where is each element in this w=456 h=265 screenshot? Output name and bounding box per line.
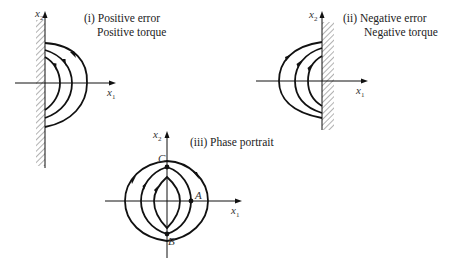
direction-arrow-icon (285, 54, 292, 61)
panel-ii-x2-label: x2 (309, 8, 317, 23)
panel-i-title-line1: (i) Positive error (84, 12, 160, 25)
hatched-wall-right (322, 22, 334, 130)
x2-axis-arrow-icon (165, 131, 170, 138)
panel-ii-title-line2: Negative torque (364, 26, 438, 39)
panel-ii-x1-label: x1 (356, 84, 364, 99)
point-a-label: A (195, 189, 202, 201)
panel-iii-x2-label: x2 (153, 128, 161, 143)
x1-axis-arrow-icon (235, 199, 242, 204)
phase-portrait-diagram (0, 0, 456, 265)
x1-axis-arrow-icon (361, 79, 368, 84)
x1-axis-arrow-icon (109, 81, 116, 86)
hatched-wall-left (36, 20, 45, 166)
panel-ii (256, 11, 368, 130)
panel-ii-title-line1: (ii) Negative error (343, 12, 427, 25)
panel-iii-x1-label: x1 (231, 204, 239, 219)
point-c-label: C (158, 152, 165, 164)
panel-i-x1-label: x1 (107, 86, 115, 101)
panel-iii-title: (iii) Phase portrait (190, 136, 274, 149)
trajectory-outer (279, 42, 322, 118)
panel-i-x2-label: x2 (35, 7, 43, 22)
point-a-marker (189, 199, 194, 204)
panel-i-title-line2: Positive torque (97, 26, 166, 39)
x2-axis-arrow-icon (320, 11, 325, 18)
direction-arrow-icon (53, 63, 57, 70)
point-b-label: B (168, 235, 175, 247)
point-c-marker (165, 165, 170, 170)
